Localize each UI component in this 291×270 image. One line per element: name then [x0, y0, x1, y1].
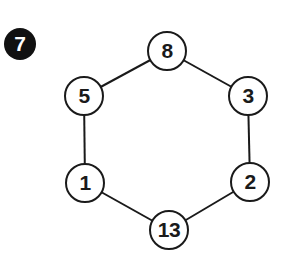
node-top: 8 [147, 31, 187, 71]
node-upper-right: 3 [228, 76, 268, 116]
node-value: 5 [78, 84, 89, 108]
node-value: 1 [79, 171, 90, 195]
node-value: 2 [244, 170, 255, 194]
node-upper-left: 5 [64, 76, 104, 116]
puzzle-diagram: 7 8 3 2 13 1 5 [0, 0, 291, 270]
puzzle-number-badge: 7 [4, 28, 36, 60]
hexagon-edges [0, 0, 291, 270]
node-value: 13 [158, 218, 180, 242]
node-value: 3 [242, 84, 253, 108]
node-lower-right: 2 [230, 162, 270, 202]
node-bottom: 13 [149, 210, 189, 250]
puzzle-number: 7 [14, 32, 26, 56]
node-lower-left: 1 [65, 163, 105, 203]
node-value: 8 [161, 39, 172, 63]
